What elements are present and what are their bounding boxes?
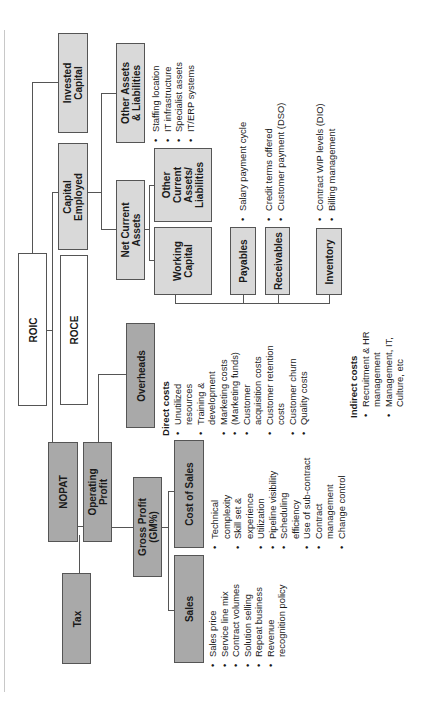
roic-node: ROIC <box>18 253 47 406</box>
cost-of-sales-drivers-list: Technicalcomplexity Skill set &experienc… <box>209 458 347 550</box>
payables-node: Payables <box>230 227 256 295</box>
overheads-direct-costs-list: Direct costs Unutilizedresources Trainin… <box>160 345 310 436</box>
connector-line <box>32 82 33 253</box>
connector-line <box>32 82 58 83</box>
connector-line <box>52 192 53 442</box>
roic-driver-tree-diagram: InvestedCapital CapitalEmployed ROIC ROC… <box>0 0 424 715</box>
capital-employed-node: CapitalEmployed <box>58 143 88 250</box>
sales-node: Sales <box>174 555 204 663</box>
connector-line <box>88 192 101 193</box>
tax-node: Tax <box>62 573 91 664</box>
connector-line <box>149 185 150 261</box>
nopat-node: NOPAT <box>48 442 78 542</box>
net-current-assets-node: Net CurrentAssets <box>116 180 145 280</box>
sales-drivers-list: Sales price Service line mix Contract vo… <box>207 584 288 668</box>
connector-line <box>175 295 176 303</box>
page-edge-line <box>4 30 5 692</box>
gross-profit-node: Gross Profit(GM%) <box>133 477 162 577</box>
receivables-drivers-list: Credit terms offered Customer payment (D… <box>263 103 286 222</box>
overheads-indirect-costs-list: Indirect costs Recruitment & HRmanagemen… <box>348 331 406 418</box>
payables-drivers-list: Salary payment cycle <box>237 122 249 222</box>
invested-capital-node: InvestedCapital <box>58 33 88 133</box>
connector-line <box>101 93 102 230</box>
inventory-drivers-list: Contract WIP levels (DIO) Billing manage… <box>314 103 337 222</box>
connector-line <box>79 535 80 573</box>
connector-line <box>175 303 330 304</box>
cost-of-sales-node: Cost of Sales <box>174 440 204 548</box>
connector-line <box>168 491 169 611</box>
connector-line <box>98 374 99 442</box>
working-capital-node: WorkingCapital <box>154 227 212 295</box>
connector-line <box>112 527 133 528</box>
connector-line <box>329 295 330 303</box>
connector-line <box>278 295 279 303</box>
connector-line <box>101 229 116 230</box>
connector-line <box>98 374 126 375</box>
other-assets-liabilities-node: Other Assets& Liabilities <box>116 43 145 143</box>
other-current-assets-liabilities-node: OtherCurrentAssets/Liabilities <box>154 148 212 222</box>
connector-line <box>243 295 244 303</box>
receivables-node: Receivables <box>265 227 290 295</box>
inventory-node: Inventory <box>316 228 342 295</box>
operating-profit-node: OperatingProfit <box>83 442 112 542</box>
connector-line <box>101 93 116 94</box>
roce-node: ROCE <box>60 255 88 405</box>
overheads-node: Overheads <box>126 323 155 428</box>
other-assets-drivers-list: Staffing location IT infrastructure Spec… <box>150 62 196 143</box>
